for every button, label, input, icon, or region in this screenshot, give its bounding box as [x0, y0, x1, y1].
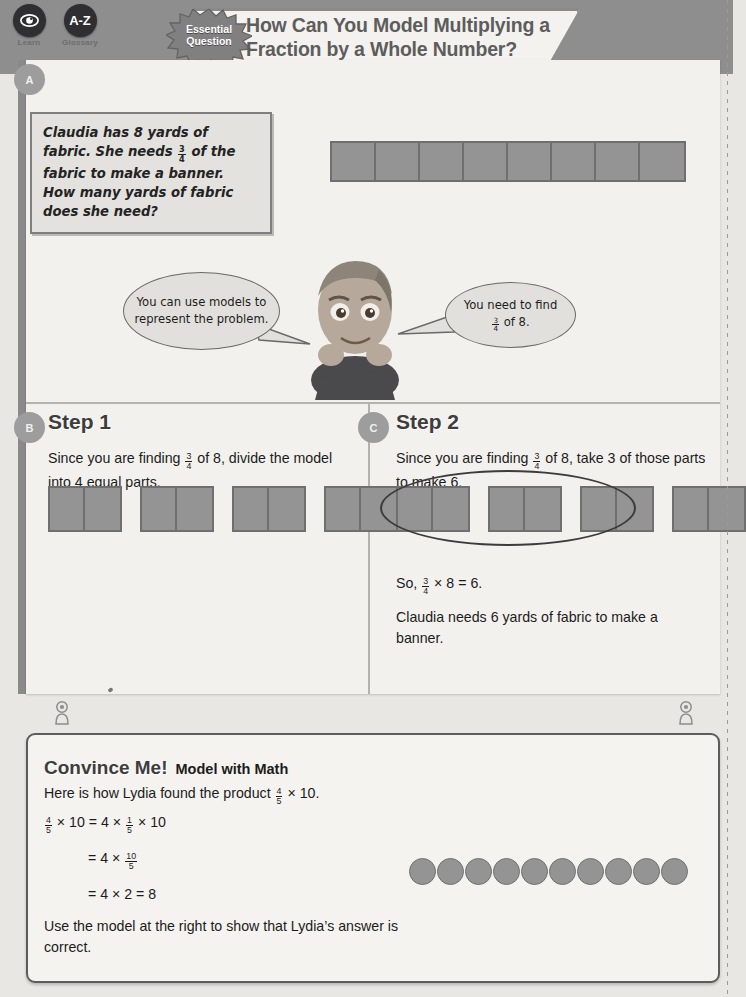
model-circle[interactable]	[465, 858, 492, 885]
cm-intro-fraction: 45	[276, 787, 283, 807]
section-badge-b[interactable]: B	[14, 412, 45, 443]
steps-horizontal-divider	[26, 402, 720, 404]
ten-circles-model[interactable]	[409, 858, 688, 885]
cm-eq2-denominator: 5	[125, 862, 137, 872]
model-cell	[361, 488, 396, 530]
model-cell	[85, 488, 120, 530]
tool-learn[interactable]: Learn	[8, 4, 50, 47]
student-character-illustration	[291, 252, 419, 400]
eq-line2: Question	[186, 35, 232, 47]
problem-fraction: 34	[178, 145, 186, 164]
speech-bubble-right: You need to find34 of 8.	[445, 282, 576, 348]
speech-bubble-right-text: You need to find34 of 8.	[464, 297, 558, 333]
model-cell	[640, 143, 684, 180]
model-cell	[552, 143, 596, 180]
pin-figure-icon-right	[676, 700, 696, 726]
model-cell	[398, 488, 433, 530]
model-group	[232, 486, 306, 532]
model-cell	[582, 488, 617, 530]
model-circle[interactable]	[577, 858, 604, 885]
page-margin-rule	[727, 0, 728, 997]
model-group	[396, 486, 470, 532]
model-circle[interactable]	[549, 858, 576, 885]
section-badge-c[interactable]: C	[358, 412, 389, 443]
model-cell	[490, 488, 525, 530]
step2-equation-prefix: So,	[396, 575, 421, 591]
cm-eq1-fraction-1: 45	[45, 816, 52, 836]
convince-me-equation-3: = 4 × 2 = 8	[88, 884, 156, 905]
bubble-right-fraction-denominator: 4	[492, 325, 499, 333]
model-cell	[332, 143, 376, 180]
model-cell	[596, 143, 640, 180]
model-circle[interactable]	[493, 858, 520, 885]
step1-title: Step 1	[48, 410, 111, 434]
step2-fraction-denominator: 4	[533, 462, 540, 472]
step2-equation-fraction: 34	[422, 577, 429, 597]
problem-fraction-denominator: 4	[178, 155, 186, 164]
convince-me-title: Convince Me!	[44, 757, 168, 779]
model-group	[488, 486, 562, 532]
convince-me-equation-1: 45 × 10 = 4 × 15 × 10	[44, 812, 166, 836]
page-title: How Can You Model Multiplying a Fraction…	[246, 13, 576, 61]
tool-icon-group: Learn A-Z Glossary	[8, 4, 101, 47]
bubble-right-line1: You need to find	[464, 298, 558, 312]
model-cell	[376, 143, 420, 180]
model-cell	[674, 488, 709, 530]
problem-statement-text: Claudia has 8 yards of fabric. She needs…	[43, 123, 259, 221]
eye-glyph	[20, 14, 39, 27]
character-svg	[291, 252, 419, 400]
model-cell	[433, 488, 468, 530]
model-cell	[464, 143, 508, 180]
eq-line1: Essential	[186, 23, 232, 35]
cm-eq1-mid: × 10 = 4 ×	[53, 814, 125, 830]
model-circle[interactable]	[661, 858, 688, 885]
problem-statement-box: Claudia has 8 yards of fabric. She needs…	[30, 112, 272, 234]
step2-equation: So, 34 × 8 = 6.	[396, 573, 708, 597]
step1-fraction-denominator: 4	[185, 462, 192, 472]
model-circle[interactable]	[633, 858, 660, 885]
model-cell	[525, 488, 560, 530]
model-group	[580, 486, 654, 532]
bubble-right-line2: of 8.	[500, 315, 530, 329]
cm-eq1-den2: 5	[126, 826, 133, 836]
model-circle[interactable]	[605, 858, 632, 885]
model-group	[672, 486, 746, 532]
model-cell	[234, 488, 269, 530]
convince-me-headline: Convince Me! Model with Math	[44, 757, 288, 779]
bubble-right-fraction: 34	[492, 317, 499, 333]
pin-figure-icon-left	[52, 700, 72, 726]
tool-learn-label: Learn	[8, 38, 50, 47]
step2-group-model	[396, 486, 746, 532]
tool-glossary[interactable]: A-Z Glossary	[59, 4, 101, 47]
eight-cell-bar-model	[330, 141, 686, 182]
model-circle[interactable]	[409, 858, 436, 885]
model-cell	[142, 488, 177, 530]
convince-me-intro: Here is how Lydia found the product 45 ×…	[44, 783, 464, 807]
model-circle[interactable]	[437, 858, 464, 885]
model-cell	[617, 488, 652, 530]
steps-vertical-divider	[368, 404, 370, 694]
step1-fraction: 34	[185, 452, 192, 472]
step2-conclusion: Claudia needs 6 yards of fabric to make …	[396, 607, 696, 649]
model-cell	[50, 488, 85, 530]
cm-intro-b: × 10.	[283, 785, 319, 801]
cm-eq1-end: × 10	[134, 814, 166, 830]
section-badge-a[interactable]: A	[14, 64, 45, 95]
model-group	[324, 486, 398, 532]
cm-eq2-fraction: 105	[125, 852, 137, 872]
model-cell	[508, 143, 552, 180]
convince-me-equation-2: = 4 × 105	[88, 848, 138, 872]
step2-text-a: Since you are finding	[396, 450, 532, 466]
model-cell	[326, 488, 361, 530]
model-cell	[177, 488, 212, 530]
step2-title: Step 2	[396, 410, 459, 434]
step1-text-a: Since you are finding	[48, 450, 184, 466]
learn-eye-icon[interactable]	[13, 4, 46, 37]
cm-eq2-prefix: = 4 ×	[88, 850, 124, 866]
step2-equation-suffix: × 8 = 6.	[430, 575, 482, 591]
model-cell	[269, 488, 304, 530]
model-group	[140, 486, 214, 532]
glossary-az-icon[interactable]: A-Z	[64, 4, 97, 37]
model-circle[interactable]	[521, 858, 548, 885]
speech-bubble-left: You can use models to represent the prob…	[123, 272, 280, 350]
